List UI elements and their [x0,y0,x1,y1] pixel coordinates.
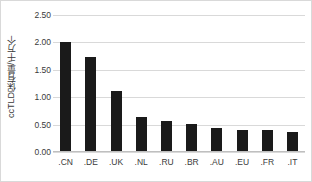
bar-slot [154,15,179,152]
x-tick-label: .FR [255,154,280,167]
bar-slot [78,15,103,152]
y-tick-label: 2.50 [7,10,51,20]
bar-slot [204,15,229,152]
bar[interactable] [237,130,248,152]
bar[interactable] [136,117,147,152]
bar[interactable] [161,121,172,152]
x-tick-label: .AU [204,154,229,167]
plot-area [53,15,305,152]
y-tick-label: 2.00 [7,37,51,47]
gridline [53,152,305,153]
y-tick-label: 0.00 [7,147,51,157]
x-tick-label: .UK [103,154,128,167]
x-tick-label: .EU [229,154,254,167]
x-axis-line [53,151,305,152]
y-tick-label: 1.00 [7,92,51,102]
bar-slot [103,15,128,152]
x-tick-label: .CN [53,154,78,167]
bar[interactable] [287,132,298,152]
y-tick-label: 0.50 [7,120,51,130]
x-tick-label: .DE [78,154,103,167]
bar-slot [255,15,280,152]
x-tick-label: .IT [280,154,305,167]
bar-slot [280,15,305,152]
bar[interactable] [262,130,273,152]
bar-slot [179,15,204,152]
x-tick-label: .RU [154,154,179,167]
bar-slot [129,15,154,152]
bar[interactable] [60,42,71,152]
x-axis-tick-labels: .CN.DE.UK.NL.RU.BR.AU.EU.FR.IT [53,154,305,172]
x-tick-label: .BR [179,154,204,167]
x-tick-label: .NL [129,154,154,167]
bar-series [53,15,305,152]
bar[interactable] [111,91,122,152]
bar-slot [53,15,78,152]
y-tick-label: 1.50 [7,65,51,75]
bar[interactable] [211,128,222,152]
bar[interactable] [186,124,197,152]
bar-chart: ccTLD保有量/千万个 0.000.501.001.502.002.50 .C… [0,0,312,182]
y-axis-tick-labels: 0.000.501.001.502.002.50 [1,15,51,152]
bar-slot [229,15,254,152]
bar[interactable] [85,57,96,152]
